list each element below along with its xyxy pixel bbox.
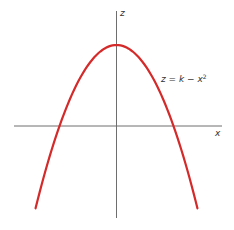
z-axis-label: z xyxy=(120,9,125,18)
equation-label: z = k − x2 xyxy=(161,74,207,84)
x-axis-label: x xyxy=(215,129,220,138)
equation-base: z = k − x xyxy=(161,74,203,84)
equation-exponent: 2 xyxy=(203,73,207,80)
parabola-plot xyxy=(0,0,234,230)
